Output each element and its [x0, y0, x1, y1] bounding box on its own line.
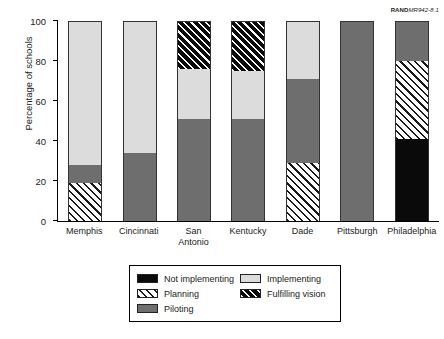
legend-swatch — [137, 304, 158, 313]
x-axis-label: SanAntonio — [166, 226, 221, 248]
y-axis-tick-label: 60 — [35, 96, 46, 107]
plot-area: 020406080100 — [57, 21, 439, 222]
legend-swatch — [240, 289, 261, 298]
bar-segment — [69, 183, 101, 221]
x-axis-label-line: Memphis — [57, 226, 112, 237]
figure-tag-number: MR942-8.1 — [408, 7, 439, 13]
x-axis-label-line: Cincinnati — [112, 226, 167, 237]
stacked-bar[interactable] — [177, 21, 211, 221]
bar-segment — [396, 61, 428, 139]
bar-segment — [287, 163, 319, 221]
stacked-bar[interactable] — [231, 21, 265, 221]
x-axis-label: Dade — [275, 226, 330, 248]
x-axis-label: Cincinnati — [112, 226, 167, 248]
y-axis-tick-label: 40 — [35, 136, 46, 147]
bar-segment — [69, 165, 101, 183]
bar-segment — [287, 21, 319, 79]
y-axis-tick-label: 0 — [41, 216, 46, 227]
legend-item[interactable]: Planning — [137, 289, 234, 299]
bar-segment — [178, 21, 210, 69]
stacked-bar[interactable] — [68, 21, 102, 221]
legend-item[interactable]: Implementing — [240, 274, 333, 284]
legend-label: Not implementing — [164, 274, 234, 284]
legend-item[interactable]: Fulfilling vision — [240, 289, 333, 299]
legend-grid: Not implementingImplementingPlanningFulf… — [137, 271, 333, 316]
y-axis-tick-label: 100 — [30, 16, 46, 27]
legend-label: Fulfilling vision — [267, 289, 326, 299]
legend: Not implementingImplementingPlanningFulf… — [129, 265, 341, 322]
legend-label: Planning — [164, 289, 199, 299]
bar-segment — [396, 139, 428, 221]
legend-swatch — [137, 289, 158, 298]
bar-group — [330, 21, 384, 221]
legend-label: Piloting — [164, 304, 194, 314]
stacked-bar[interactable] — [340, 21, 374, 221]
bar-segment — [232, 71, 264, 119]
stacked-bar[interactable] — [286, 21, 320, 221]
bar-segment — [232, 21, 264, 71]
x-axis-label-line: Philadelphia — [384, 226, 439, 237]
y-axis-tick-label: 20 — [35, 176, 46, 187]
bar-segment — [178, 69, 210, 119]
bar-group — [276, 21, 330, 221]
legend-swatch — [240, 274, 261, 283]
bar-group — [385, 21, 439, 221]
bar-segment — [178, 119, 210, 221]
x-axis-label: Pittsburgh — [330, 226, 385, 248]
bar-group — [58, 21, 112, 221]
legend-swatch — [137, 274, 158, 283]
bar-group — [221, 21, 275, 221]
bar-segment — [124, 153, 156, 221]
x-axis-label-line: Dade — [275, 226, 330, 237]
legend-item[interactable]: Piloting — [137, 304, 234, 314]
legend-item[interactable]: Not implementing — [137, 274, 234, 284]
bar-segment — [341, 21, 373, 221]
bar-segment — [232, 119, 264, 221]
y-axis-tick-label: 80 — [35, 56, 46, 67]
x-axis-label: Memphis — [57, 226, 112, 248]
bar-group — [112, 21, 166, 221]
bar-segment — [69, 21, 101, 165]
x-axis-label: Kentucky — [221, 226, 276, 248]
stacked-bar[interactable] — [395, 21, 429, 221]
x-axis-labels: MemphisCincinnatiSanAntonioKentuckyDadeP… — [57, 226, 439, 248]
bar-segment — [287, 79, 319, 163]
x-axis-label: Philadelphia — [384, 226, 439, 248]
x-axis-label-line: Antonio — [166, 237, 221, 248]
bar-segment — [396, 21, 428, 61]
x-axis-label-line: Kentucky — [221, 226, 276, 237]
bar-group — [167, 21, 221, 221]
figure-source-tag: RANDMR942-8.1 — [391, 7, 439, 13]
stacked-bar[interactable] — [123, 21, 157, 221]
figure-tag-prefix: RAND — [391, 7, 409, 13]
legend-label: Implementing — [267, 274, 321, 284]
x-axis-label-line: Pittsburgh — [330, 226, 385, 237]
x-axis-label-line: San — [166, 226, 221, 237]
bar-segment — [124, 21, 156, 153]
bars-layer — [58, 21, 439, 221]
